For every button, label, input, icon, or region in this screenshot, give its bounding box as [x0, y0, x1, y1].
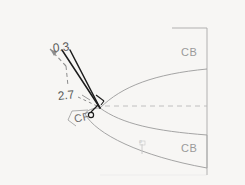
focus-circle-marker [88, 112, 93, 117]
ray-wedge-group [62, 50, 104, 108]
focal-point-group [88, 105, 98, 118]
cf-bracket-group [68, 110, 88, 126]
cf-bracket-outline [68, 110, 88, 126]
ray-vertex-tick [96, 95, 104, 101]
dim-03-connector [66, 66, 68, 86]
ray-line-left [62, 50, 100, 108]
dim-27-tick [82, 95, 90, 100]
lower-outer-curve [85, 114, 207, 168]
lower-band-group [85, 108, 207, 168]
lower-inner-curve [100, 108, 207, 135]
frame-lines [100, 28, 207, 175]
diagram-canvas [0, 0, 245, 185]
upper-parabola-group [100, 69, 207, 108]
lower-curve-tick-box [140, 141, 145, 145]
optical-reflector-diagram: CB CB CF 0.3 2.7 o [0, 0, 245, 185]
upper-inner-curve [100, 69, 207, 108]
ray-line-right [70, 50, 100, 108]
